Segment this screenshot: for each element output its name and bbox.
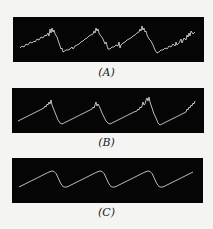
waveform-c <box>12 158 203 203</box>
panel-c <box>12 158 203 203</box>
trace-c <box>19 171 193 187</box>
panel-label-c: (C) <box>0 207 213 219</box>
trace-a <box>20 26 195 53</box>
waveform-b <box>12 88 204 133</box>
panel-a <box>13 17 204 62</box>
panel-b <box>12 88 204 133</box>
waveform-a <box>13 17 204 62</box>
panel-label-b: (B) <box>0 137 213 149</box>
panel-label-a: (A) <box>0 67 213 79</box>
trace-b <box>18 97 195 125</box>
